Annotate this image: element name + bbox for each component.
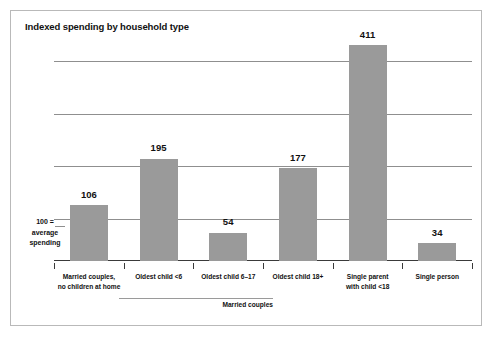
bar-value: 54	[223, 216, 234, 227]
plot-area: 106 195 54 177 411 34	[54, 31, 472, 261]
category-label-oldest-child-18-plus: Oldest child 18+	[259, 272, 337, 282]
average-spending-annotation: 100 = average spending	[25, 217, 65, 249]
bar-value: 411	[360, 29, 375, 40]
average-annotation-line1: 100 =	[25, 217, 65, 228]
bar-oldest-child-under-6	[140, 159, 178, 262]
category-label-line1: Oldest child 18+	[259, 272, 337, 282]
category-label-line2: no children at home	[50, 282, 128, 292]
category-label-single-parent: Single parent with child <18	[329, 272, 407, 291]
bar-oldest-child-6-17	[209, 233, 247, 261]
bar-single-parent-with-child	[349, 45, 387, 261]
chart-figure: Indexed spending by household type 106 1…	[10, 10, 482, 326]
category-label-oldest-child-6-17: Oldest child 6–17	[189, 272, 267, 282]
category-label-line1: Oldest child <6	[120, 272, 198, 282]
category-label-line1: Single parent	[329, 272, 407, 282]
bar-value: 195	[151, 142, 167, 153]
category-label-line1: Married couples,	[50, 272, 128, 282]
axis-tick	[263, 263, 264, 269]
category-label-married-no-children: Married couples, no children at home	[50, 272, 128, 291]
axis-tick	[402, 263, 403, 269]
category-label-line1: Oldest child 6–17	[189, 272, 267, 282]
category-label-line1: Single person	[398, 272, 476, 282]
axis-tick	[193, 263, 194, 269]
group-bracket-line	[119, 298, 273, 299]
average-annotation-line3: spending	[25, 238, 65, 249]
group-label-married-couples: Married couples	[119, 301, 273, 308]
bar-single-person	[418, 243, 456, 261]
category-label-line2: with child <18	[329, 282, 407, 292]
average-annotation-line2: average	[25, 228, 65, 239]
axis-tick	[333, 263, 334, 269]
axis-tick	[472, 263, 473, 269]
bar-value: 106	[81, 189, 97, 200]
category-label-oldest-child-under-6: Oldest child <6	[120, 272, 198, 282]
bar-slot: 34	[402, 31, 472, 261]
bar-value: 177	[290, 152, 306, 163]
axis-tick	[54, 263, 55, 269]
category-axis: Married couples, no children at home Old…	[54, 263, 472, 325]
bar-married-no-children	[70, 205, 108, 261]
bar-slot: 411	[333, 31, 403, 261]
bar-slot: 195	[124, 31, 194, 261]
bar-slot: 54	[193, 31, 263, 261]
bar-oldest-child-18-plus	[279, 168, 317, 261]
category-label-single-person: Single person	[398, 272, 476, 282]
bar-slot: 177	[263, 31, 333, 261]
axis-tick	[124, 263, 125, 269]
bar-value: 34	[432, 227, 443, 238]
